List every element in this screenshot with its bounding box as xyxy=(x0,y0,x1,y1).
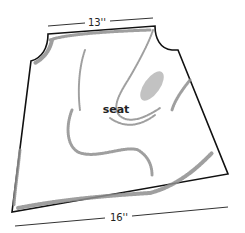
top-dimension: 13'' xyxy=(48,17,153,28)
top-dimension-label: 13'' xyxy=(88,17,106,28)
seat-label: seat xyxy=(103,103,130,116)
bottom-dimension: 16'' xyxy=(15,207,228,226)
seat-pattern-diagram: 13'' seat 16'' xyxy=(0,0,245,233)
bottom-dimension-label: 16'' xyxy=(110,212,128,223)
